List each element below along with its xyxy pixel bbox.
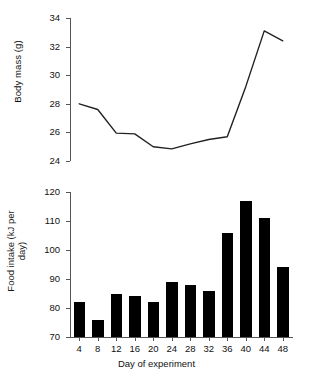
body-mass-y-axis-label: Body mass (g) (12, 19, 23, 125)
body-mass-y-tick-label: 34 (30, 12, 60, 23)
food-intake-bar (166, 282, 178, 337)
food-intake-x-tick (209, 337, 210, 341)
food-intake-x-tick (246, 337, 247, 341)
food-intake-y-tick-label: 70 (30, 331, 60, 342)
food-intake-x-axis-line (70, 337, 293, 338)
food-intake-bar (129, 296, 141, 337)
food-intake-x-tick (172, 337, 173, 341)
body-mass-y-tick-label: 30 (30, 69, 60, 80)
food-intake-x-tick (135, 337, 136, 341)
food-intake-bar (277, 267, 289, 337)
food-intake-bar (74, 302, 86, 337)
food-intake-bar (203, 291, 215, 337)
food-intake-y-tick-label: 80 (30, 302, 60, 313)
food-intake-y-axis-label-line2: day) (16, 201, 27, 301)
food-intake-bar (240, 201, 252, 337)
food-intake-y-tick-label: 100 (30, 244, 60, 255)
food-intake-y-axis-label: Food intake (kJ per day) (5, 201, 31, 301)
food-intake-bar (185, 285, 197, 337)
food-intake-y-tick (66, 337, 70, 338)
food-intake-x-tick (98, 337, 99, 341)
food-intake-y-tick-label: 120 (30, 186, 60, 197)
figure-container: Body mass (g) 242628303234 Food intake (… (0, 0, 313, 387)
food-intake-bar (222, 233, 234, 337)
food-intake-bar (259, 218, 271, 337)
body-mass-chart-panel: Body mass (g) 242628303234 (0, 0, 313, 180)
food-intake-x-tick (79, 337, 80, 341)
food-intake-x-tick (264, 337, 265, 341)
body-mass-line-series (70, 18, 292, 161)
body-mass-y-tick-label: 26 (30, 126, 60, 137)
body-mass-y-tick-label: 24 (30, 155, 60, 166)
food-intake-plot-area (70, 192, 292, 337)
food-intake-y-axis-label-line1: Food intake (kJ per (5, 201, 16, 301)
body-mass-y-tick-label: 28 (30, 98, 60, 109)
food-intake-bar (111, 294, 123, 338)
food-intake-x-tick (153, 337, 154, 341)
food-intake-x-tick (227, 337, 228, 341)
food-intake-x-tick (190, 337, 191, 341)
food-intake-y-tick-label: 110 (30, 215, 60, 226)
food-intake-bar (92, 320, 104, 337)
body-mass-plot-area (70, 18, 292, 161)
food-intake-chart-panel: Food intake (kJ per day) 708090100110120… (0, 180, 313, 387)
body-mass-y-tick-label: 32 (30, 41, 60, 52)
food-intake-y-tick-label: 90 (30, 273, 60, 284)
food-intake-bar (148, 302, 160, 337)
food-intake-x-tick (283, 337, 284, 341)
food-intake-x-tick-label: 48 (271, 343, 295, 354)
body-mass-y-tick (66, 161, 70, 162)
food-intake-x-tick (116, 337, 117, 341)
x-axis-title: Day of experiment (0, 358, 313, 369)
